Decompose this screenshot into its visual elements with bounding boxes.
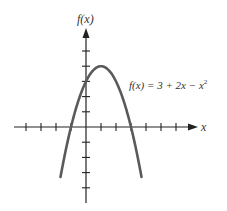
function-graph: f(x) x f(x) = 3 + 2x − x2 <box>0 0 227 211</box>
x-axis-label: x <box>200 120 207 134</box>
equation-text: f(x) = 3 + 2x − x <box>129 79 204 92</box>
y-axis-label: f(x) <box>77 12 94 26</box>
x-axis-arrow-icon <box>188 124 198 131</box>
axes <box>14 28 198 203</box>
equation-label: f(x) = 3 + 2x − x2 <box>129 78 208 92</box>
y-axis-arrow-icon <box>83 28 90 38</box>
equation-exponent: 2 <box>204 78 208 86</box>
